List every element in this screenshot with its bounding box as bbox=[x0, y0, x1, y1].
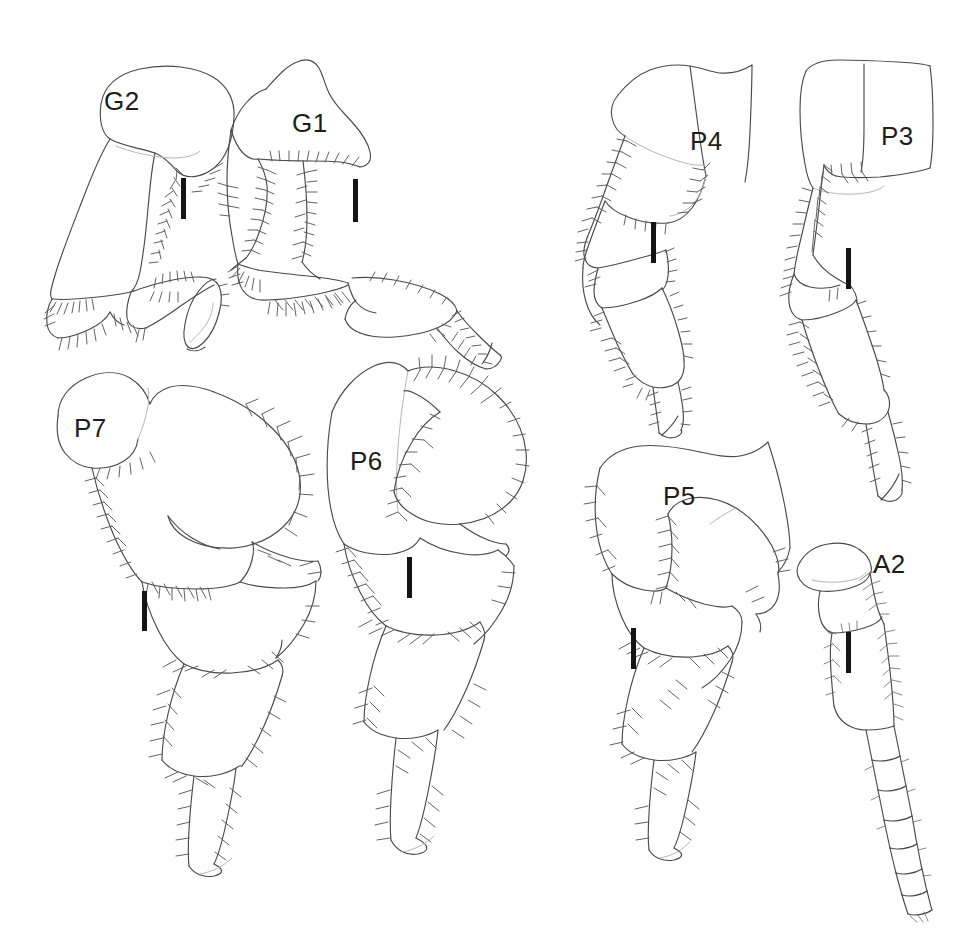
label-p3: P3 bbox=[881, 123, 914, 149]
scale-bar-g1 bbox=[353, 179, 358, 222]
scale-bars bbox=[0, 0, 970, 948]
label-a2: A2 bbox=[873, 551, 906, 577]
label-p4: P4 bbox=[690, 128, 723, 154]
scale-bar-p4 bbox=[651, 222, 656, 263]
label-p7: P7 bbox=[74, 415, 107, 441]
label-p5: P5 bbox=[663, 483, 696, 509]
scale-bar-p6 bbox=[407, 557, 412, 598]
illustration-plate: G2 G1 P4 P3 P7 P6 P5 A2 bbox=[0, 0, 970, 948]
scale-bar-a2 bbox=[846, 632, 851, 673]
scale-bar-p5 bbox=[631, 628, 636, 669]
label-g1: G1 bbox=[292, 110, 328, 136]
scale-bar-p7 bbox=[142, 591, 147, 631]
scale-bar-p3 bbox=[846, 248, 851, 289]
label-g2: G2 bbox=[104, 88, 140, 114]
label-p6: P6 bbox=[350, 448, 383, 474]
scale-bar-g2 bbox=[181, 178, 186, 219]
